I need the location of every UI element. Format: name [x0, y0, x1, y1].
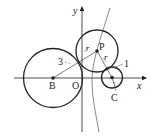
point-C-label: C [111, 92, 118, 103]
leader-3 [65, 62, 72, 64]
origin-label: O [72, 80, 79, 91]
point-C [110, 76, 114, 80]
y-axis-label: y [72, 5, 78, 16]
x-axis-label: x [136, 80, 142, 91]
radius-3-label: 3 [58, 56, 63, 67]
point-P-label: P [99, 41, 105, 52]
leader-1 [113, 64, 123, 68]
radius-r-label-1: r [86, 43, 90, 53]
diagram-svg: y x O B P C 3 r r 1 [0, 0, 152, 139]
diagram-canvas: y x O B P C 3 r r 1 [0, 0, 152, 139]
radius-1-label: 1 [124, 58, 129, 69]
point-B-label: B [49, 80, 56, 91]
radius-r-label-2: r [104, 52, 108, 62]
